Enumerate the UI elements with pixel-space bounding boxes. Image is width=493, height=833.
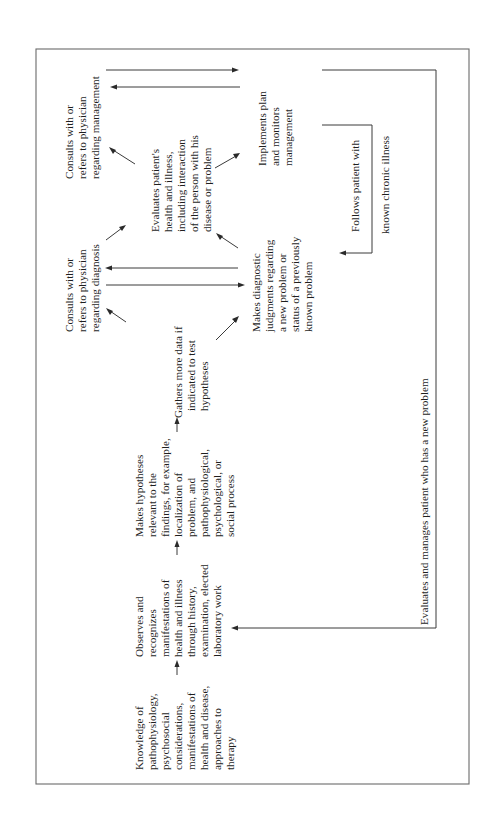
node-hypotheses-line: social process — [224, 475, 236, 537]
node-evaluates-line: Evaluates patient's — [149, 149, 161, 232]
node-diagnostic-line: status of a previously — [289, 236, 301, 332]
node-implements: Implements plan and monitors management — [256, 91, 294, 166]
arrowhead-icon — [232, 316, 239, 323]
node-hypotheses-line: localization of — [172, 472, 184, 537]
arrow-evaluates-to-consults-management — [109, 147, 135, 164]
node-observes-line: manifestations of — [159, 579, 171, 657]
node-knowledge-line: approaches to — [211, 708, 223, 770]
node-observes: Observes and recognizes manifestations o… — [133, 564, 223, 657]
new-problem-loop-label: Evaluates and manages patient who has a … — [418, 378, 430, 625]
node-evaluates-line: of the person with his — [188, 135, 200, 232]
node-observes-line: health and illness — [172, 579, 184, 657]
node-diagnostic-judgments: Makes diagnostic judgments regarding a n… — [250, 236, 314, 333]
arrow-consults-diagnosis-to-evaluates — [106, 225, 126, 240]
node-knowledge-line: manifestations of — [185, 692, 197, 770]
node-evaluates-line: disease or problem — [201, 147, 213, 232]
chronic-loop-label-1: Follows patient with — [349, 140, 361, 232]
node-knowledge-line: health and disease, — [198, 686, 210, 770]
node-implements-line: management — [282, 108, 294, 166]
node-consults-management: Consults with or refers to physician reg… — [63, 75, 101, 179]
node-knowledge-line: pathophysiology, — [146, 693, 158, 770]
node-evaluates-line: including interaction — [175, 139, 187, 232]
node-implements-line: Implements plan — [256, 91, 268, 166]
node-observes-line: Observes and — [133, 596, 145, 657]
node-implements-line: and monitors — [269, 107, 281, 166]
arrowhead-icon — [233, 153, 240, 159]
node-observes-line: laboratory work — [211, 585, 223, 657]
node-consults-diagnosis-line: refers to physician — [76, 249, 88, 332]
arrowhead-icon — [232, 68, 239, 73]
node-observes-line: through history, — [185, 586, 197, 657]
node-consults-management-line: Consults with or — [63, 105, 75, 179]
arrow-knowledge-to-observes — [175, 660, 180, 675]
arrowhead-icon — [106, 308, 113, 315]
node-gathers-line: Gathers more data if — [172, 326, 184, 418]
arrowhead-icon — [175, 540, 180, 547]
loop-chronic-illness — [322, 125, 372, 256]
node-knowledge-line: psychosocial — [159, 712, 171, 770]
node-hypotheses-line: psychological, or — [211, 460, 223, 537]
arrow-evaluates-to-implements — [215, 153, 240, 168]
arrow-hypotheses-to-gathers — [175, 417, 180, 432]
arrowhead-icon — [231, 626, 238, 631]
node-diagnostic-line: judgments regarding — [263, 239, 275, 333]
node-knowledge-line: Knowledge of — [133, 706, 145, 770]
node-consults-management-line: refers to physician — [76, 96, 88, 179]
node-evaluates-health: Evaluates patient's health and illness, … — [149, 135, 213, 232]
arrow-gathers-to-consults-diagnosis — [106, 308, 126, 322]
node-gathers-line: hypotheses — [198, 361, 210, 411]
arrowhead-icon — [105, 266, 112, 271]
node-observes-line: examination, elected — [198, 564, 210, 657]
arrowhead-icon — [238, 283, 245, 288]
chronic-loop-label-2: known chronic illness — [379, 136, 391, 234]
node-knowledge-line: considerations, — [172, 702, 184, 770]
node-evaluates-line: health and illness, — [162, 151, 174, 232]
node-gathers: Gathers more data if indicated to test h… — [172, 326, 210, 418]
node-gathers-line: indicated to test — [185, 339, 197, 411]
node-knowledge-line: therapy — [224, 736, 236, 770]
node-consults-diagnosis-line: Consults with or — [63, 258, 75, 332]
node-diagnostic-line: a new problem or — [276, 253, 288, 332]
arrow-gathers-to-diagnostic — [216, 316, 239, 340]
node-hypotheses-line: relevant to the — [146, 473, 158, 537]
arrow-diagnostic-to-evaluates — [216, 233, 238, 248]
node-diagnostic-line: Makes diagnostic — [250, 253, 262, 332]
arrow-implements-to-consults-management — [110, 85, 240, 90]
arrowhead-icon — [216, 233, 223, 240]
arrow-consults-management-to-implements — [106, 68, 239, 73]
arrowhead-icon — [110, 85, 117, 90]
arrowhead-icon — [175, 660, 180, 667]
node-knowledge: Knowledge of pathophysiology, psychosoci… — [133, 686, 236, 770]
node-hypotheses-line: findings, for example, — [159, 438, 171, 537]
arrow-consults-diagnosis-to-diagnostic — [106, 283, 245, 288]
node-hypotheses-line: pathophysiological, — [198, 449, 210, 537]
node-diagnostic-line: known problem — [302, 261, 314, 332]
node-hypotheses-line: Makes hypotheses — [133, 455, 145, 537]
arrowhead-icon — [119, 225, 126, 231]
node-consults-management-line: regarding management — [89, 75, 101, 179]
node-hypotheses-line: problem, and — [185, 478, 197, 537]
node-consults-diagnosis-line: regarding diagnosis — [89, 244, 101, 332]
node-hypotheses: Makes hypotheses relevant to the finding… — [133, 438, 236, 537]
diagram-canvas: Knowledge of pathophysiology, psychosoci… — [0, 0, 493, 833]
arrow-diagnostic-to-consults-diagnosis — [105, 266, 238, 271]
node-consults-diagnosis: Consults with or refers to physician reg… — [63, 244, 101, 332]
arrowhead-icon — [339, 251, 346, 256]
node-observes-line: recognizes — [146, 609, 158, 657]
arrowhead-icon — [109, 147, 116, 154]
arrow-observes-to-hypotheses — [175, 540, 180, 555]
